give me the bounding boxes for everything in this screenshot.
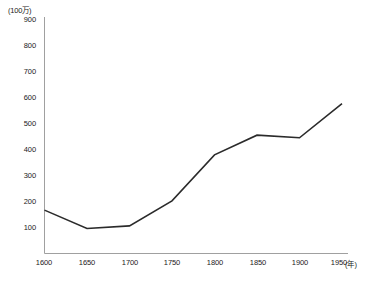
data-series-line	[45, 104, 343, 229]
line-chart: (100万) 900 800 700 600 500 400 300 200 1…	[0, 0, 372, 283]
plot-area	[0, 0, 372, 283]
